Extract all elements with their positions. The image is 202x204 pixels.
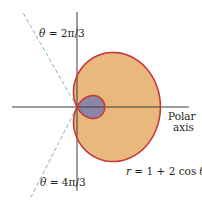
ray-theta-2pi-3 xyxy=(22,11,77,107)
polar-axis-label-line2: axis xyxy=(173,121,194,133)
polar-graph: θ = 2π/3 θ = 4π/3 Polar axis r = 1 + 2 c… xyxy=(0,0,202,204)
equation-body: = 1 + 2 cos xyxy=(131,165,200,177)
ray-upper-value: = 2π/3 xyxy=(45,27,84,39)
equation-label: r = 1 + 2 cos θ xyxy=(126,165,202,177)
equation-theta: θ xyxy=(200,165,202,177)
ray-lower-value: = 4π/3 xyxy=(46,176,85,188)
ray-upper-label: θ = 2π/3 xyxy=(39,27,85,39)
ray-lower-label: θ = 4π/3 xyxy=(40,176,86,188)
